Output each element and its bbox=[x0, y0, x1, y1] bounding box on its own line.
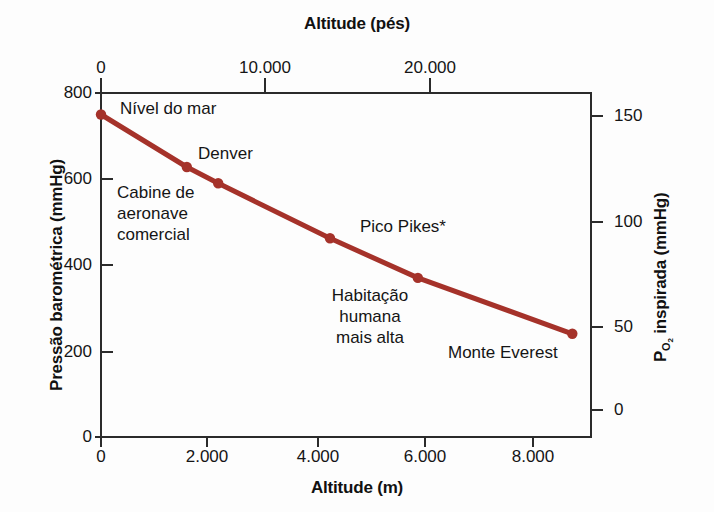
data-point-4 bbox=[413, 273, 423, 283]
data-point-5 bbox=[567, 329, 577, 339]
data-point-0 bbox=[96, 109, 106, 119]
annotation-sea-level: Nível do mar bbox=[120, 98, 216, 119]
right-axis-ticks bbox=[591, 116, 603, 410]
data-point-1 bbox=[182, 162, 192, 172]
left-axis-ticks bbox=[95, 93, 113, 437]
annotation-pikes-peak: Pico Pikes* bbox=[360, 216, 446, 237]
annotation-denver: Denver bbox=[198, 143, 253, 164]
annotation-highest-habitation: Habitaçãohumanamais alta bbox=[332, 285, 409, 348]
top-axis-ticks bbox=[101, 78, 430, 93]
data-point-2 bbox=[213, 178, 223, 188]
data-point-3 bbox=[325, 233, 335, 243]
plot-area bbox=[0, 0, 714, 512]
chart-figure: Altitude (pés) Altitude (m) Pressão baro… bbox=[0, 0, 714, 512]
annotation-mount-everest: Monte Everest bbox=[448, 342, 558, 363]
bottom-axis-ticks bbox=[101, 437, 533, 447]
plot-frame bbox=[101, 93, 591, 437]
annotation-airplane-cabin: Cabine deaeronavecomercial bbox=[117, 182, 195, 245]
